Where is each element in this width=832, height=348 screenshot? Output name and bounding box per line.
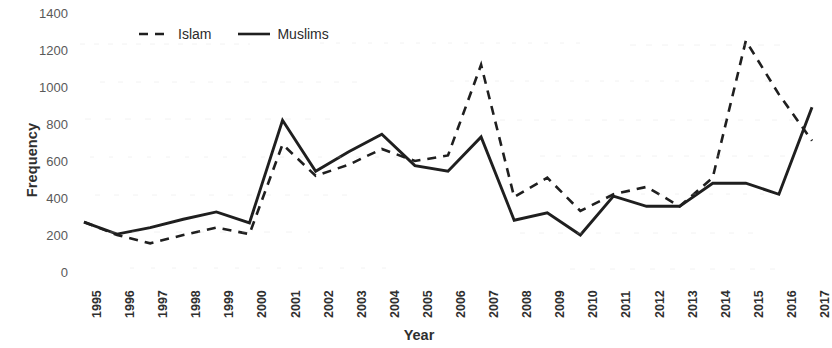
series-line-islam — [84, 41, 812, 244]
x-axis-title: Year — [0, 327, 820, 343]
series-line-muslims — [84, 107, 812, 235]
x-tick-label: 2017 — [818, 290, 832, 318]
